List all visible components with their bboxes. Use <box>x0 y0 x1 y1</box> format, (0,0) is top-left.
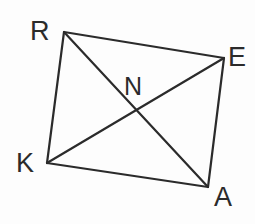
geometry-figure: R E A K N <box>0 0 255 224</box>
edge-A-K <box>47 163 208 187</box>
quadrilateral-diagonals <box>47 32 224 187</box>
edge-E-A <box>208 58 224 187</box>
edge-R-E <box>64 32 224 58</box>
edge-K-R <box>47 32 64 163</box>
vertex-label-A: A <box>214 184 232 211</box>
vertex-label-E: E <box>228 44 246 71</box>
intersection-label-N: N <box>124 74 142 99</box>
vertex-label-R: R <box>30 18 50 45</box>
vertex-label-K: K <box>16 150 34 177</box>
